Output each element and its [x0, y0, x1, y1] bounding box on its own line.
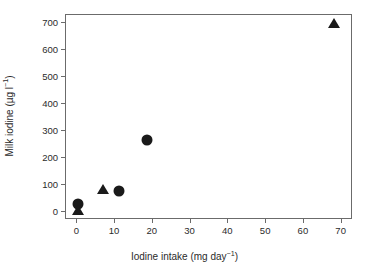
x-tick-label: 50: [260, 225, 271, 236]
x-tick-label: 40: [222, 225, 233, 236]
y-tick-label: 100: [42, 178, 58, 189]
x-axis-label: Iodine intake (mg day−1): [0, 249, 369, 262]
data-point-circle: [141, 135, 152, 146]
x-tick: [265, 219, 266, 223]
y-tick: [61, 76, 65, 77]
x-tick-label: 60: [298, 225, 309, 236]
y-tick: [61, 130, 65, 131]
x-tick: [303, 219, 304, 223]
y-tick: [61, 157, 65, 158]
x-tick: [190, 219, 191, 223]
data-point-triangle: [72, 205, 84, 215]
x-tick-label: 30: [184, 225, 195, 236]
y-tick-label: 600: [42, 44, 58, 55]
y-tick-label: 700: [42, 17, 58, 28]
x-tick-label: 70: [335, 225, 346, 236]
y-tick: [61, 184, 65, 185]
scatter-plot-figure: 010203040506070 0100200300400500600700 I…: [0, 0, 369, 274]
plot-data-area: [66, 15, 351, 218]
x-tick-label: 20: [147, 225, 158, 236]
plot-frame: [65, 14, 352, 219]
x-tick: [114, 219, 115, 223]
data-point-triangle: [97, 184, 109, 194]
y-tick: [61, 49, 65, 50]
x-tick: [76, 219, 77, 223]
y-tick-label: 500: [42, 71, 58, 82]
x-tick: [341, 219, 342, 223]
y-tick: [61, 22, 65, 23]
y-axis-label: Milk iodine (µg l−1): [1, 75, 14, 156]
x-tick: [227, 219, 228, 223]
x-tick-label: 0: [74, 225, 79, 236]
y-tick-label: 200: [42, 151, 58, 162]
y-tick: [61, 103, 65, 104]
y-tick-label: 0: [53, 205, 58, 216]
y-tick-label: 400: [42, 98, 58, 109]
x-tick-label: 10: [109, 225, 120, 236]
x-tick: [152, 219, 153, 223]
y-tick-label: 300: [42, 124, 58, 135]
data-point-circle: [113, 185, 124, 196]
data-point-triangle: [328, 18, 340, 28]
y-tick: [61, 211, 65, 212]
